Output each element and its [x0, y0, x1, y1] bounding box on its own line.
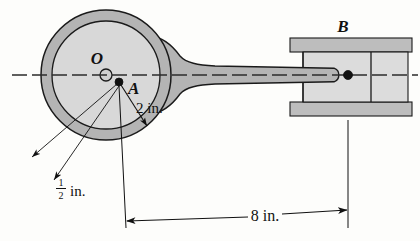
- thickness-unit: in.: [70, 183, 85, 199]
- thickness-denominator: 2: [59, 190, 64, 201]
- thickness-dimension-label: 1 2 in.: [56, 177, 85, 201]
- lower-guide-rail: [290, 102, 412, 116]
- span-dimension-line: [127, 210, 347, 221]
- radius-dimension-label: 2 in.: [136, 100, 163, 116]
- label-a: A: [127, 79, 139, 98]
- upper-guide-rail: [290, 38, 412, 52]
- thickness-numerator: 1: [59, 177, 64, 188]
- span-dimension-right-segment: [282, 210, 347, 214]
- label-b: B: [336, 17, 348, 36]
- label-o: O: [91, 49, 103, 68]
- pin-b-marker: [344, 71, 353, 80]
- span-dimension-label: 8 in.: [251, 207, 279, 224]
- mechanism-diagram-canvas: O A B 2 in. 1 2 in. 8 in.: [0, 0, 420, 241]
- mechanism-figure: O A B 2 in. 1 2 in. 8 in.: [0, 0, 420, 241]
- span-dimension-left-segment: [127, 217, 248, 221]
